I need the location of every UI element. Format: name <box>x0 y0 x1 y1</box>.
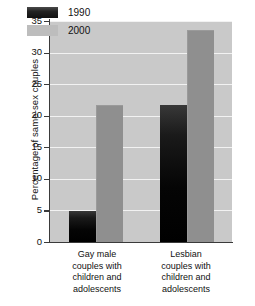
chart-legend: 19902000 <box>27 6 137 42</box>
x-axis-category-label-1: Lesbiancouples withchildren andadolescen… <box>140 249 232 295</box>
bar-2000-1 <box>187 30 214 242</box>
x-axis-line <box>49 242 233 243</box>
legend-label-2000: 2000 <box>68 24 90 37</box>
legend-item-1990: 1990 <box>27 6 137 20</box>
x-axis-category-line: children and <box>140 272 232 284</box>
y-tick-label: 10 <box>16 173 42 183</box>
y-tick-mark <box>44 84 49 85</box>
y-tick-label: 25 <box>16 79 42 89</box>
y-tick-mark <box>44 242 49 243</box>
x-axis-category-line: adolescents <box>140 284 232 296</box>
legend-swatch-1990 <box>27 7 58 18</box>
y-tick-mark <box>44 53 49 54</box>
bar-1990-0 <box>69 211 96 242</box>
x-axis-category-line: couples with <box>51 261 143 273</box>
bar-1990-1 <box>160 105 187 242</box>
x-axis-category-label-0: Gay malecouples withchildren andadolesce… <box>51 249 143 295</box>
legend-item-2000: 2000 <box>27 24 137 38</box>
y-tick-mark <box>44 179 49 180</box>
y-tick-label: 20 <box>16 110 42 120</box>
x-axis-category-line: couples with <box>140 261 232 273</box>
y-axis-line <box>49 19 50 243</box>
x-axis-category-line: children and <box>51 272 143 284</box>
y-tick-mark <box>44 210 49 211</box>
x-axis-category-line: Lesbian <box>140 249 232 261</box>
y-tick-label: 15 <box>16 142 42 152</box>
legend-label-1990: 1990 <box>68 6 90 19</box>
x-axis-category-line: Gay male <box>51 249 143 261</box>
y-tick-mark <box>44 116 49 117</box>
y-tick-mark <box>44 147 49 148</box>
bar-2000-0 <box>96 105 123 242</box>
y-tick-label: 5 <box>16 205 42 215</box>
y-tick-label: 0 <box>16 237 42 247</box>
x-axis-category-line: adolescents <box>51 284 143 296</box>
bar-chart-figure: Percentage of same-sex couples 051015202… <box>0 0 255 306</box>
y-tick-label: 30 <box>16 47 42 57</box>
legend-swatch-2000 <box>27 25 58 36</box>
